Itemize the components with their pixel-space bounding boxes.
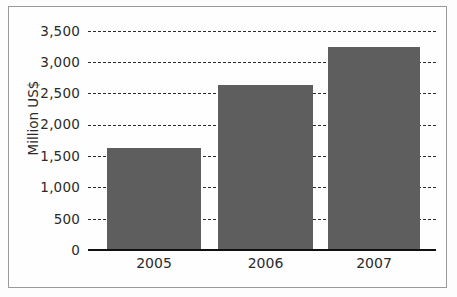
y-axis-tick-labels: 3,500 3,000 2,500 2,000 1,500 1,000 500 … xyxy=(14,0,80,297)
y-tick-label-3500: 3,500 xyxy=(18,23,80,39)
x-tick-label-2005: 2005 xyxy=(107,255,201,271)
y-tick-label-1500: 1,500 xyxy=(18,148,80,164)
x-axis-baseline xyxy=(88,249,436,251)
y-tick-label-2500: 2,500 xyxy=(18,85,80,101)
bar-2007 xyxy=(328,47,420,250)
gridline-3500 xyxy=(88,31,436,32)
y-tick-label-500: 500 xyxy=(18,211,80,227)
y-tick-label-2000: 2,000 xyxy=(18,116,80,132)
bar-2005 xyxy=(107,148,201,250)
x-tick-label-2006: 2006 xyxy=(218,255,313,271)
bar-2006 xyxy=(218,85,313,250)
chart-figure: Million US$ 3,500 3,000 2,500 2,000 1,50… xyxy=(0,0,457,297)
x-tick-label-2007: 2007 xyxy=(328,255,420,271)
y-tick-label-1000: 1,000 xyxy=(18,179,80,195)
y-tick-label-3000: 3,000 xyxy=(18,54,80,70)
y-tick-label-0: 0 xyxy=(18,242,80,258)
